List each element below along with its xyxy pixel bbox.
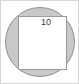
- figure-frame: 10: [0, 0, 79, 84]
- side-length-label: 10: [41, 17, 51, 27]
- geometry-figure: 10: [1, 1, 79, 84]
